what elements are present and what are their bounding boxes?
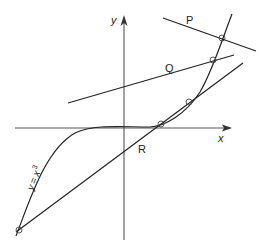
axes xyxy=(15,15,232,240)
y-axis-label: y xyxy=(110,14,118,26)
line-q-label: Q xyxy=(165,62,174,74)
cubic-tangents-diagram: P Q R x y y = x 3 xyxy=(0,0,271,252)
intersection-markers xyxy=(16,35,225,233)
line-p xyxy=(163,18,256,51)
line-r xyxy=(16,63,243,232)
line-p-label: P xyxy=(186,14,193,26)
curve-label: y = x 3 xyxy=(22,164,44,193)
x-axis-label: x xyxy=(217,132,224,144)
line-q xyxy=(68,55,234,103)
line-r-label: R xyxy=(138,143,146,155)
